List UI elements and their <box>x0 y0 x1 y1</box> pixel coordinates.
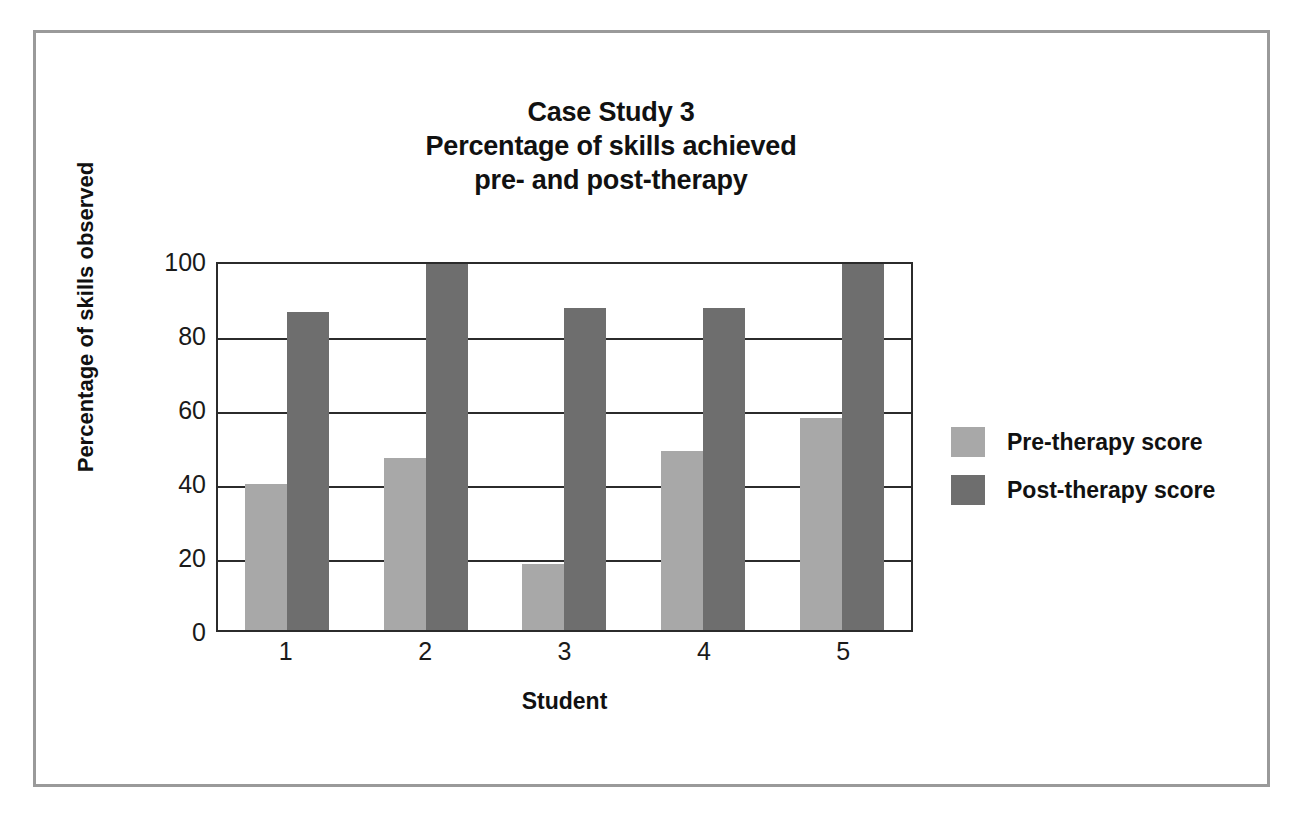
x-axis-tick-labels: 1 2 3 4 5 <box>216 637 913 666</box>
legend-label-pre-therapy: Pre-therapy score <box>1007 429 1203 456</box>
bar-pre-therapy-student-1 <box>245 484 287 630</box>
bar-post-therapy-student-5 <box>842 264 884 630</box>
y-tick-label: 20 <box>178 544 206 573</box>
y-tick-label: 60 <box>178 396 206 425</box>
legend-swatch-post-therapy <box>951 475 985 505</box>
x-tick-label: 2 <box>362 637 487 666</box>
bar-post-therapy-student-3 <box>564 308 606 630</box>
chart-title-line-3: pre- and post-therapy <box>36 163 1186 197</box>
bar-pre-therapy-student-5 <box>800 418 842 630</box>
x-tick-label: 4 <box>641 637 766 666</box>
bar-pre-therapy-student-2 <box>384 458 426 630</box>
bar-group-student-2 <box>364 264 489 630</box>
chart-legend: Pre-therapy score Post-therapy score <box>951 418 1261 514</box>
x-axis-title: Student <box>216 688 913 715</box>
legend-item-post-therapy: Post-therapy score <box>951 466 1261 514</box>
x-tick-label: 3 <box>502 637 627 666</box>
legend-label-post-therapy: Post-therapy score <box>1007 477 1215 504</box>
bar-pre-therapy-student-3 <box>522 564 564 630</box>
bar-pre-therapy-student-4 <box>661 451 703 630</box>
y-axis-tick-labels: 100 80 60 40 20 0 <box>132 262 206 632</box>
y-tick-label: 40 <box>178 470 206 499</box>
bar-post-therapy-student-1 <box>287 312 329 630</box>
y-tick-label: 80 <box>178 322 206 351</box>
y-axis-title: Percentage of skills observed <box>73 117 99 517</box>
x-tick-label: 5 <box>781 637 906 666</box>
plot-area <box>216 262 913 632</box>
chart-title-line-2: Percentage of skills achieved <box>36 129 1186 163</box>
legend-item-pre-therapy: Pre-therapy score <box>951 418 1261 466</box>
figure-frame: Case Study 3 Percentage of skills achiev… <box>33 30 1270 787</box>
bars-layer <box>218 264 911 630</box>
chart-title-line-1: Case Study 3 <box>36 95 1186 129</box>
y-tick-label: 0 <box>192 618 206 647</box>
y-tick-label: 100 <box>164 248 206 277</box>
bar-group-student-4 <box>641 264 766 630</box>
legend-swatch-pre-therapy <box>951 427 985 457</box>
bar-group-student-3 <box>502 264 627 630</box>
chart-title: Case Study 3 Percentage of skills achiev… <box>36 95 1186 197</box>
x-tick-label: 1 <box>223 637 348 666</box>
bar-post-therapy-student-2 <box>426 264 468 630</box>
bar-group-student-1 <box>225 264 350 630</box>
bar-group-student-5 <box>779 264 904 630</box>
bar-post-therapy-student-4 <box>703 308 745 630</box>
